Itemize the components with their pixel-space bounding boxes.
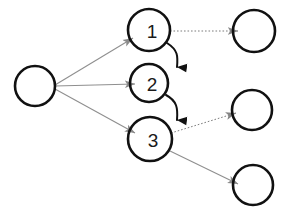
node-group-source[interactable]	[15, 66, 55, 106]
diagram-root: 1 2 3	[0, 0, 286, 217]
node-graph-canvas: 1 2 3	[0, 0, 286, 217]
node-3-label: 3	[148, 130, 159, 151]
canvas-background	[0, 0, 286, 217]
node-1-label: 1	[147, 21, 158, 42]
node-source-circle[interactable]	[15, 66, 55, 106]
node-2-label: 2	[147, 74, 158, 95]
